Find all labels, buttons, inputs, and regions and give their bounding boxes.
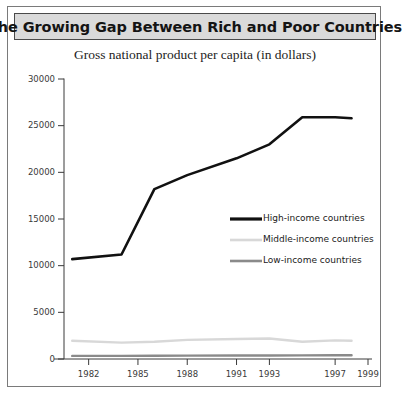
chart-figure: The Growing Gap Between Rich and Poor Co…	[7, 6, 381, 387]
x-axis-tick-label: 1993	[249, 369, 289, 379]
legend-label: Low-income countries	[263, 255, 362, 265]
legend-label: Middle-income countries	[263, 234, 374, 244]
y-axis-tick-label: 25000	[8, 120, 55, 130]
y-axis-tick-label: 0	[8, 354, 55, 364]
plot-area: 0500010000150002000025000300001982198519…	[8, 7, 382, 388]
y-axis-tick-label: 20000	[8, 167, 55, 177]
series-line	[72, 338, 351, 342]
x-axis-tick-label: 1982	[69, 369, 109, 379]
line-chart-svg	[8, 7, 382, 388]
legend-label: High-income countries	[263, 213, 365, 223]
y-axis-tick-label: 30000	[8, 74, 55, 84]
series-line	[72, 355, 351, 356]
y-axis-tick-label: 5000	[8, 307, 55, 317]
x-axis-tick-label: 1988	[167, 369, 207, 379]
y-axis-tick-label: 10000	[8, 260, 55, 270]
x-axis-tick-label: 1985	[118, 369, 158, 379]
y-axis-tick-label: 15000	[8, 214, 55, 224]
x-axis-tick-label: 1999	[348, 369, 388, 379]
